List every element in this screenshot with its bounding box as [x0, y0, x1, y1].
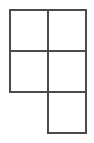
figure-canvas: [0, 0, 94, 143]
cell-middle-left: [10, 51, 48, 92]
cell-top-right: [48, 10, 86, 51]
cell-middle-right: [48, 51, 86, 92]
grid-polyomino-figure: [0, 0, 94, 143]
cell-bottom-right: [48, 92, 86, 133]
cell-top-left: [10, 10, 48, 51]
